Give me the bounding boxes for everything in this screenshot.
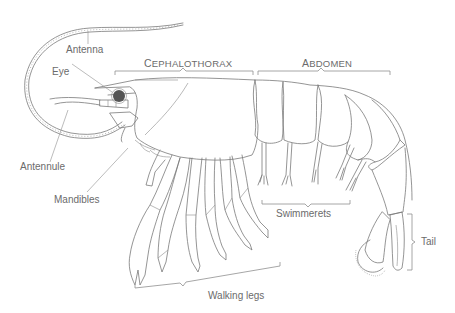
tail-fan-drawing: [356, 212, 405, 276]
label-swimmerets: Swimmerets: [276, 209, 331, 219]
walking-legs-drawing: [129, 150, 268, 285]
label-eye: Eye: [52, 67, 69, 77]
label-walking-legs: Walking legs: [208, 291, 264, 301]
swimmerets-drawing: [258, 142, 366, 191]
label-abdomen: ABDOMEN: [302, 58, 352, 69]
eye-drawing: [113, 90, 125, 102]
antenna-drawing: [25, 23, 183, 138]
region-brackets: [115, 68, 415, 288]
label-antenna: Antenna: [66, 45, 103, 55]
abdomen-drawing: [253, 80, 412, 215]
label-tail: Tail: [421, 237, 436, 247]
label-cephalothorax: CEPHALOTHORAX: [144, 58, 232, 69]
shrimp-anatomy-diagram: Antenna Eye Antennule Mandibles CEPHALOT…: [0, 0, 455, 313]
label-antennule: Antennule: [20, 162, 65, 172]
label-mandibles: Mandibles: [54, 195, 100, 205]
